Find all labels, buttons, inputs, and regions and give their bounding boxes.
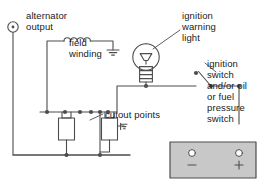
battery-icon bbox=[170, 142, 256, 178]
junction-dot bbox=[45, 110, 49, 114]
relay-coil-left-icon bbox=[59, 112, 75, 140]
junction-dot bbox=[63, 110, 67, 114]
alternator-output-terminal-icon bbox=[8, 22, 18, 32]
ignition-warning-light-leader bbox=[153, 30, 180, 49]
label-ignition-warning-light: ignition warning light bbox=[182, 10, 216, 43]
junction-dot bbox=[78, 110, 82, 114]
field-winding-left-wire bbox=[47, 41, 64, 112]
relay-right-bottom-wire bbox=[100, 140, 110, 152]
label-field-winding: field winding bbox=[69, 37, 102, 59]
label-ignition-switch: ignition switch and/or oil or fuel press… bbox=[207, 58, 247, 124]
light-bulb-icon bbox=[133, 44, 159, 82]
label-alternator-output: alternator output bbox=[26, 10, 67, 32]
circuit-diagram-canvas: alternator output field winding ignition… bbox=[0, 0, 271, 188]
junction-dot bbox=[89, 110, 93, 114]
junction-dot bbox=[98, 153, 102, 157]
label-cutout-points: cutout points bbox=[105, 109, 160, 120]
cutout-points-icon bbox=[144, 84, 148, 88]
bulb-return-wire bbox=[117, 82, 146, 112]
field-winding-ground-icon bbox=[107, 50, 119, 55]
